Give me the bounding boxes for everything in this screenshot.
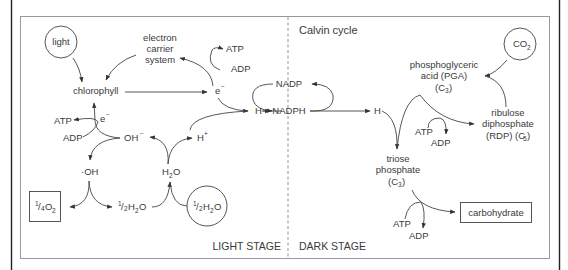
svg-text:+: + (204, 130, 208, 137)
svg-text:H: H (128, 201, 135, 212)
atp-top-label: ATP (226, 43, 244, 54)
svg-text:O: O (214, 201, 221, 212)
half-water-label: 1 / 2 H 2 O (118, 200, 146, 214)
svg-text:−: − (221, 83, 225, 90)
electron-label: e − (215, 83, 225, 96)
arrow-adp-to-atp-top (210, 48, 223, 70)
adp-top-label: ADP (231, 63, 251, 74)
arrow-water-to-hydroxide (150, 137, 168, 164)
calvin-cycle-label: Calvin cycle (299, 24, 358, 36)
arrow-hydroxide-to-radical (90, 138, 120, 160)
hydroxyl-radical-label: ·OH (81, 166, 99, 177)
svg-text:H: H (203, 201, 210, 212)
adp-mid-label: ADP (431, 137, 451, 148)
svg-text:O: O (139, 201, 146, 212)
adp-bottom-label: ADP (409, 230, 429, 241)
svg-text:ribulose: ribulose (491, 107, 524, 118)
svg-text:phosphate: phosphate (376, 164, 420, 175)
arrow-light-to-chlorophyll (73, 58, 82, 82)
photosynthesis-diagram: light electron carrier system chlorophyl… (0, 0, 568, 270)
carbohydrate-box: carbohydrate (461, 203, 532, 223)
electron-left-label: e − (100, 111, 110, 124)
svg-text:(C: (C (388, 176, 398, 187)
dark-stage-label: DARK STAGE (299, 240, 366, 252)
svg-text:(C: (C (435, 82, 445, 93)
svg-text:electron: electron (143, 32, 177, 43)
nadph-label: NADPH (272, 105, 305, 116)
nadp-label: NADP (276, 78, 302, 89)
arrow-pga-to-triose (397, 95, 420, 149)
svg-text:H: H (197, 132, 204, 143)
svg-text:phosphoglyceric: phosphoglyceric (410, 59, 479, 70)
arrow-co2-to-pga (485, 60, 507, 76)
arrow-half-water-source-to-water (170, 182, 187, 206)
svg-text:e: e (215, 85, 220, 96)
arrow-triose-to-carbohydrate (412, 190, 455, 212)
arrow-nadph-to-nadp (310, 84, 333, 111)
svg-text:O: O (173, 166, 180, 177)
svg-text:carbohydrate: carbohydrate (468, 207, 523, 218)
arrow-hydrogen-to-triose (382, 111, 397, 149)
svg-text:acid (PGA): acid (PGA) (421, 70, 467, 81)
half-water-source-node: 1 / 2 H 2 O (187, 186, 227, 226)
svg-text:diphosphate: diphosphate (482, 118, 534, 129)
light-node: light (45, 26, 77, 58)
triose-phosphate-node: triose phosphate (C 3 ) (376, 153, 420, 188)
pga-node: phosphoglyceric acid (PGA) (C 3 ) (410, 59, 479, 94)
atp-bottom-label: ATP (393, 218, 411, 229)
hydrogen-ion-label: H + (197, 130, 208, 143)
electron-carrier-node: electron carrier system (143, 32, 177, 65)
arrow-electron-to-hydrogen (218, 98, 248, 111)
svg-text:light: light (52, 36, 70, 47)
hydroxide-label: OH − (124, 130, 144, 143)
arrow-rdp-to-pga (485, 76, 506, 107)
svg-text:−: − (106, 111, 110, 118)
arrow-water-to-hion (168, 138, 192, 164)
water-label: H 2 O (162, 166, 180, 179)
hydrogen-label: H (255, 105, 262, 116)
svg-text:system: system (145, 54, 175, 65)
atp-mid-label: ATP (415, 126, 433, 137)
arrow-electron-to-carrier (180, 58, 213, 86)
svg-text:CO: CO (513, 38, 527, 49)
svg-text:OH: OH (124, 132, 138, 143)
svg-text:triose: triose (386, 153, 409, 164)
arrow-radical-to-half-water (89, 181, 112, 207)
svg-text:2: 2 (52, 207, 56, 214)
adp-left-label: ADP (63, 132, 83, 143)
dark-hydrogen-label: H (374, 105, 381, 116)
svg-text:(RDP) (C: (RDP) (C (486, 130, 525, 141)
svg-text:e: e (100, 113, 105, 124)
arrow-half-water-to-water (152, 182, 170, 207)
svg-text:2: 2 (527, 44, 531, 51)
svg-text:H: H (162, 166, 169, 177)
oxygen-product-box: 1 / 4 O 2 (30, 192, 61, 222)
svg-text:): ) (449, 82, 452, 93)
arrow-pga-to-rdp (420, 95, 474, 124)
arrow-radical-to-oxygen (70, 181, 89, 207)
svg-text:): ) (527, 130, 530, 141)
svg-text:−: − (140, 130, 144, 137)
svg-text:): ) (402, 176, 405, 187)
light-stage-label: LIGHT STAGE (213, 240, 281, 252)
svg-text:carrier: carrier (147, 43, 174, 54)
arrow-hion-to-hydrogen (190, 111, 248, 130)
atp-left-label: ATP (54, 115, 72, 126)
arrow-hydroxide-to-chlorophyll (94, 103, 120, 138)
co2-node: CO 2 (504, 28, 536, 60)
arrow-carrier-to-chlorophyll (106, 55, 136, 80)
chlorophyll-label: chlorophyll (73, 85, 118, 96)
rdp-node: ribulose diphosphate (RDP) (C 5 ) (482, 107, 534, 142)
